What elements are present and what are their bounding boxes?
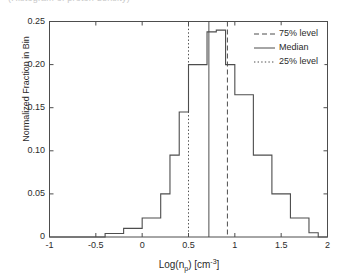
y-tick-label: 0.25 (0, 16, 45, 26)
x-axis-label: Log(np) [cm-3] (49, 258, 329, 272)
xlabel-mid: ) [cm (188, 259, 210, 270)
x-tick-label: -1 (30, 240, 70, 250)
x-tick-label: 0.5 (169, 240, 209, 250)
x-tick-label: 1 (215, 240, 255, 250)
legend-label: 75% level (279, 28, 318, 38)
figure-container: (Histogram of proton density) Normalized… (0, 0, 341, 279)
x-tick-label: 0 (122, 240, 162, 250)
y-tick-label: 0.15 (0, 102, 45, 112)
xlabel-pre: Log(n (159, 259, 185, 270)
x-tick-label: -0.5 (76, 240, 116, 250)
reference-lines (189, 22, 228, 238)
y-tick-label: 0.05 (0, 188, 45, 198)
xlabel-post: ] (217, 259, 220, 270)
x-tick-label: 2 (308, 240, 341, 250)
legend-label: 25% level (279, 56, 318, 66)
y-axis-label: Normalized Fraction in Bin (21, 19, 31, 159)
x-tick-label: 1.5 (261, 240, 301, 250)
y-tick-label: 0.10 (0, 145, 45, 155)
legend-label: Median (279, 42, 309, 52)
y-tick-label: 0.20 (0, 59, 45, 69)
